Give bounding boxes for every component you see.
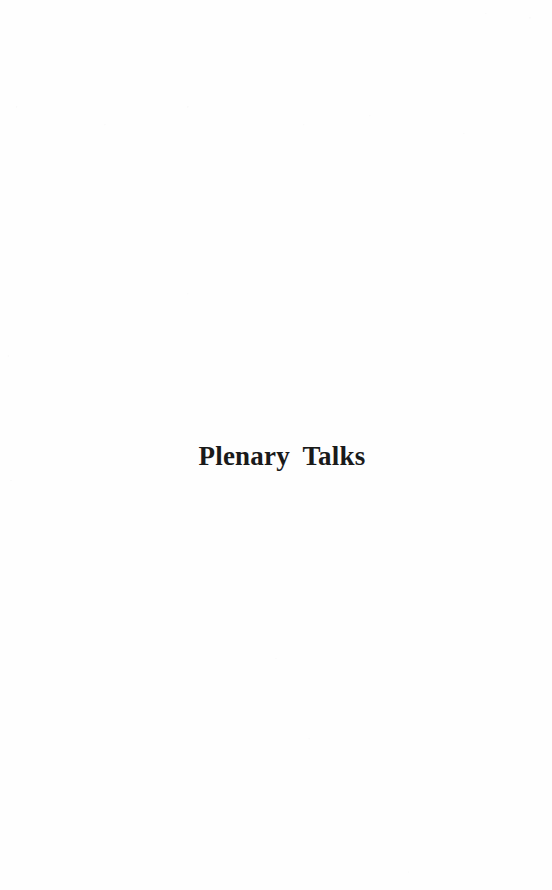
scanned-page: Plenary Talks	[0, 0, 552, 890]
part-title-block: Plenary Talks	[0, 443, 552, 470]
page-title: Plenary Talks	[199, 443, 366, 470]
